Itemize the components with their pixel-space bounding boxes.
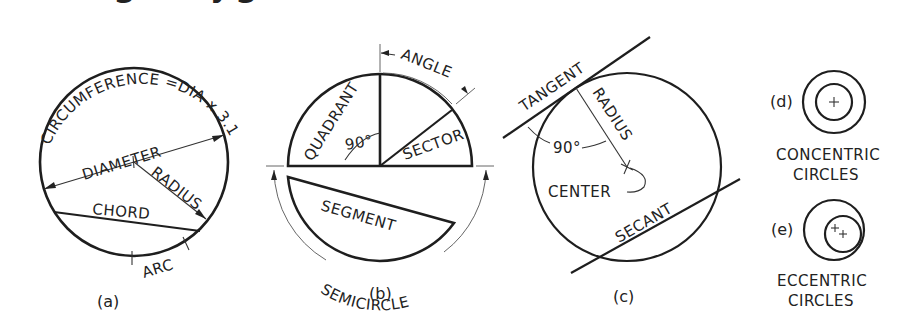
right-angle-arc-right-c (582, 141, 606, 148)
center-mark-v (624, 160, 630, 174)
radius-label-c: RADIUS (589, 84, 637, 144)
semicircle-arc-right (444, 170, 486, 252)
caption-a: (a) (97, 292, 119, 311)
caption-c: (c) (613, 287, 634, 306)
center-leader (627, 168, 645, 192)
semicircle-arrow-left (271, 170, 277, 180)
cropped-header-text: g yg (112, 0, 259, 3)
diameter-arrow-left (44, 182, 56, 189)
segment-label: SEGMENT (319, 197, 398, 236)
ninety-label-c: 90° (553, 139, 581, 157)
panel-c-lines: TANGENT RADIUS 90° CENTER SECANT (c) (503, 37, 740, 306)
ninety-label-b: 90° (344, 131, 375, 154)
header-fragment-1: g (112, 0, 137, 3)
angle-arrow-left (381, 50, 389, 56)
diameter-arrow-right (212, 135, 224, 142)
secant-label: SECANT (612, 199, 676, 246)
caption-b: (b) (369, 284, 392, 303)
header-fragment-2: yg (210, 0, 259, 3)
caption-d: (d) (770, 92, 793, 111)
panel-a-circle-parts: CIRCUMFERENCE =DIA x 3.1416 DIAMETER RAD… (0, 0, 243, 311)
circumference-label: CIRCUMFERENCE =DIA x 3.1416 (0, 0, 243, 147)
arc-label: ARC (140, 255, 176, 282)
sector-label: SECTOR (400, 125, 466, 164)
angle-arrow-right (461, 86, 468, 94)
panel-b-circle-regions: QUADRANT 90° SECTOR ANGLE SEGMENT SEMICI… (266, 44, 494, 314)
semicircle-label: SEMICIRCLE (318, 280, 411, 314)
radius-label-a: RADIUS (148, 163, 206, 214)
panel-d-concentric: (d) CONCENTRIC CIRCLES (770, 71, 880, 184)
concentric-label-line2: CIRCLES (793, 166, 859, 184)
concentric-label-line1: CONCENTRIC (776, 146, 880, 164)
eccentric-label-line1: ECCENTRIC (777, 272, 867, 290)
caption-e: (e) (771, 220, 793, 239)
chord-label: CHORD (92, 200, 151, 223)
semicircle-arrow-right (483, 170, 489, 180)
circle-terminology-figure: g yg CIRCUMFERENCE =DIA x 3.1416 DIAMETE… (0, 0, 919, 323)
center-label: CENTER (548, 183, 611, 201)
outer-circle-e (804, 200, 864, 260)
eccentric-label-line2: CIRCLES (788, 292, 854, 310)
panel-e-eccentric: (e) ECCENTRIC CIRCLES (771, 200, 867, 310)
